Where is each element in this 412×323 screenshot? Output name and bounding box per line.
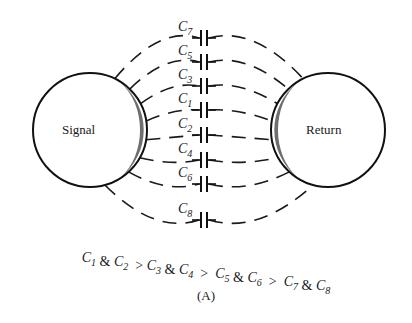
- field-line: [209, 185, 313, 223]
- capacitor-label: C6: [178, 165, 192, 183]
- field-line: [209, 158, 278, 163]
- capacitor-c3: C3: [178, 67, 216, 94]
- field-line: [209, 36, 303, 79]
- capacitor-label: C7: [178, 19, 193, 37]
- field-line: [209, 110, 272, 121]
- capacitor-label: C3: [178, 67, 192, 85]
- field-line: [146, 135, 199, 140]
- capacitor-c4: C4: [178, 141, 216, 168]
- field-line: [209, 172, 289, 187]
- return-conductor: Return: [271, 73, 385, 187]
- field-line: [146, 110, 199, 121]
- capacitor-c2: C2: [178, 116, 216, 143]
- signal-conductor: Signal: [33, 73, 147, 187]
- capacitance-diagram: Signal Return C7C5C3C1C2C4C6C8 C1 & C2 >…: [0, 0, 412, 323]
- capacitor-c6: C6: [178, 165, 216, 192]
- capacitor-c7: C7: [178, 19, 216, 46]
- return-label: Return: [306, 122, 342, 137]
- capacitor-c1: C1: [178, 91, 216, 118]
- field-line: [209, 85, 277, 104]
- capacitor-label: C2: [178, 116, 192, 134]
- figure-caption: (A): [197, 288, 215, 303]
- capacitor-c5: C5: [178, 43, 216, 70]
- capacitor-label: C4: [178, 141, 192, 159]
- capacitor-label: C5: [178, 43, 192, 61]
- conductors: Signal Return: [33, 73, 385, 187]
- capacitor-label: C1: [178, 91, 192, 109]
- capacitor-c8: C8: [178, 201, 216, 228]
- signal-label: Signal: [62, 122, 96, 137]
- capacitors: C7C5C3C1C2C4C6C8: [178, 19, 216, 228]
- field-line: [209, 135, 272, 140]
- capacitor-label: C8: [178, 201, 192, 219]
